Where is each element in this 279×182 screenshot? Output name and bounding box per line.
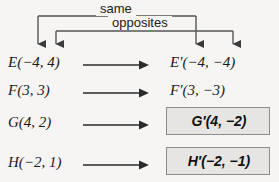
reflection-mapping-diagram: same opposites E(−4, 4) E′(−4, −4) F(3, … [0,0,279,182]
preimage-point-e: E(−4, 4) [8,52,60,72]
image-point-h-prime: H′(−2, −1) [167,148,271,174]
mapping-row-e: E(−4, 4) E′(−4, −4) [0,52,279,80]
highlight-box-h-prime: H′(−2, −1) [166,147,270,175]
opposites-bracket [56,31,233,44]
opposites-label: opposites [108,16,172,30]
image-point-g-prime: G′(4, −2) [167,108,271,134]
preimage-point-g: G(4, 2) [8,112,51,132]
maps-to-arrow-f [83,88,149,98]
highlight-box-g-prime: G′(4, −2) [166,107,270,135]
maps-to-arrow-e [83,60,149,70]
mapping-row-f: F(3, 3) F′(3, −3) [0,80,279,108]
preimage-point-h: H(−2, 1) [8,152,61,172]
mapping-row-h: H(−2, 1) H′(−2, −1) [0,152,279,180]
image-point-f-prime: F′(3, −3) [170,80,225,100]
maps-to-arrow-g [83,120,149,130]
bracket-arrows-group [0,0,279,60]
same-label: same [96,2,136,16]
mapping-row-g: G(4, 2) G′(4, −2) [0,112,279,140]
preimage-point-f: F(3, 3) [8,80,50,100]
image-point-e-prime: E′(−4, −4) [170,52,235,72]
maps-to-arrow-h [83,160,149,170]
